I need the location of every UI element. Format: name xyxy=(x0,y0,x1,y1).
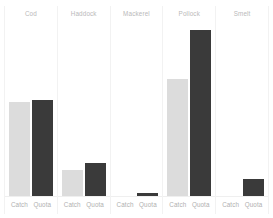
facet-panel-smelt: Smelt Catch Quota xyxy=(215,6,269,214)
axis-mackerel: Catch Quota xyxy=(111,197,163,214)
bar-smelt-quota[interactable] xyxy=(243,179,264,197)
facet-panel-haddock: Haddock Catch Quota xyxy=(57,6,110,214)
plot-area-cod xyxy=(5,21,57,197)
tick-mackerel-catch: Catch xyxy=(115,201,136,208)
facet-label-mackerel: Mackerel xyxy=(111,6,163,21)
bar-haddock-catch[interactable] xyxy=(62,170,83,196)
tick-cod-quota: Quota xyxy=(32,201,53,208)
plot-area-haddock xyxy=(58,21,110,197)
tick-mackerel-quota: Quota xyxy=(137,201,158,208)
tick-haddock-catch: Catch xyxy=(62,201,83,208)
tick-haddock-quota: Quota xyxy=(85,201,106,208)
bar-haddock-quota[interactable] xyxy=(85,163,106,196)
axis-smelt: Catch Quota xyxy=(216,197,268,214)
bar-pollock-catch[interactable] xyxy=(167,79,188,196)
facet-label-pollock: Pollock xyxy=(163,6,215,21)
facet-label-haddock: Haddock xyxy=(58,6,110,21)
bar-cod-quota[interactable] xyxy=(32,100,53,196)
bar-group-mackerel xyxy=(111,21,163,196)
bar-pollock-quota[interactable] xyxy=(190,30,211,196)
facet-strip-container: Cod Catch Quota Haddock C xyxy=(4,6,269,214)
facet-panel-mackerel: Mackerel Catch Quota xyxy=(110,6,163,214)
axis-haddock: Catch Quota xyxy=(58,197,110,214)
faceted-bar-chart: Cod Catch Quota Haddock C xyxy=(0,0,273,218)
bar-group-cod xyxy=(5,21,57,196)
facet-label-cod: Cod xyxy=(5,6,57,21)
tick-smelt-quota: Quota xyxy=(243,201,264,208)
tick-pollock-catch: Catch xyxy=(167,201,188,208)
plot-area-mackerel xyxy=(111,21,163,197)
bar-group-haddock xyxy=(58,21,110,196)
bar-group-pollock xyxy=(163,21,215,196)
plot-area-pollock xyxy=(163,21,215,197)
facet-panel-cod: Cod Catch Quota xyxy=(4,6,57,214)
tick-pollock-quota: Quota xyxy=(190,201,211,208)
plot-area-smelt xyxy=(216,21,268,197)
axis-pollock: Catch Quota xyxy=(163,197,215,214)
facet-panel-pollock: Pollock Catch Quota xyxy=(162,6,215,214)
axis-cod: Catch Quota xyxy=(5,197,57,214)
bar-cod-catch[interactable] xyxy=(9,102,30,197)
facet-label-smelt: Smelt xyxy=(216,6,268,21)
tick-smelt-catch: Catch xyxy=(220,201,241,208)
bar-mackerel-quota[interactable] xyxy=(137,193,158,197)
tick-cod-catch: Catch xyxy=(9,201,30,208)
bar-group-smelt xyxy=(216,21,268,196)
